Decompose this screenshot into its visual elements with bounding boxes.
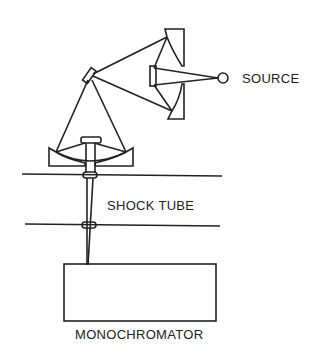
shock-tube-label: SHOCK TUBE: [107, 198, 194, 213]
shock-tube-bottom-wall: [25, 224, 220, 226]
source-label: SOURCE: [242, 71, 299, 86]
upper-concave-mirror-bottom: [168, 84, 184, 119]
flat-mirror-center: [150, 66, 156, 86]
monochromator-label: MONOCHROMATOR: [75, 327, 203, 342]
optical-diagram: [0, 0, 322, 359]
upper-concave-mirror-top: [165, 29, 184, 66]
rays-source: [56, 37, 218, 152]
source-icon: [218, 73, 228, 83]
lower-small-mirror: [81, 137, 101, 173]
shock-tube-top-wall: [22, 174, 222, 176]
monochromator-box: [64, 264, 216, 321]
